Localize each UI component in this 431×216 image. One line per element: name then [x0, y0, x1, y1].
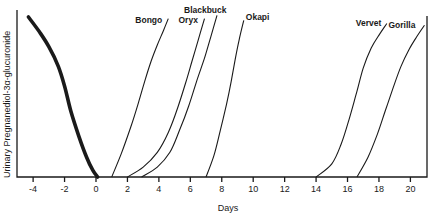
series-label-bongo: Bongo — [135, 15, 162, 25]
plot-frame — [17, 10, 427, 177]
series-label-oryx: Oryx — [179, 15, 199, 25]
x-tick-label: 18 — [374, 184, 384, 194]
x-tick-label: 16 — [343, 184, 353, 194]
series-label-okapi: Okapi — [246, 12, 270, 22]
x-tick-label: 12 — [280, 184, 290, 194]
series-line-bongo — [112, 19, 169, 177]
x-tick-label: 20 — [405, 184, 415, 194]
series-line-vervet — [316, 24, 387, 178]
x-ticks — [33, 177, 410, 182]
y-axis-title: Urinary Pregnanediol-3α-glucuronide — [2, 31, 12, 178]
x-tick-labels: -4-202468101214161820 — [29, 184, 415, 194]
x-tick-label: 10 — [248, 184, 258, 194]
x-tick-label: -2 — [61, 184, 69, 194]
series-curves — [28, 15, 424, 177]
series-label-blackbuck: Blackbuck — [184, 5, 227, 15]
x-tick-label: 6 — [188, 184, 193, 194]
series-label-vervet: Vervet — [356, 18, 382, 28]
series-line-decline — [28, 17, 97, 177]
series-line-oryx — [127, 19, 204, 177]
x-tick-label: -4 — [29, 184, 37, 194]
x-axis-title: Days — [218, 203, 239, 213]
series-labels: BongoOryxBlackbuckOkapiVervetGorilla — [135, 5, 415, 30]
chart: -4-202468101214161820 BongoOryxBlackbuck… — [0, 0, 431, 216]
series-line-gorilla — [357, 25, 425, 177]
x-tick-label: 8 — [219, 184, 224, 194]
series-line-blackbuck — [142, 15, 217, 177]
series-label-gorilla: Gorilla — [389, 20, 416, 30]
x-tick-label: 0 — [93, 184, 98, 194]
series-line-okapi — [206, 20, 244, 177]
x-tick-label: 4 — [156, 184, 161, 194]
x-tick-label: 14 — [311, 184, 321, 194]
axes — [17, 10, 427, 177]
x-tick-label: 2 — [125, 184, 130, 194]
